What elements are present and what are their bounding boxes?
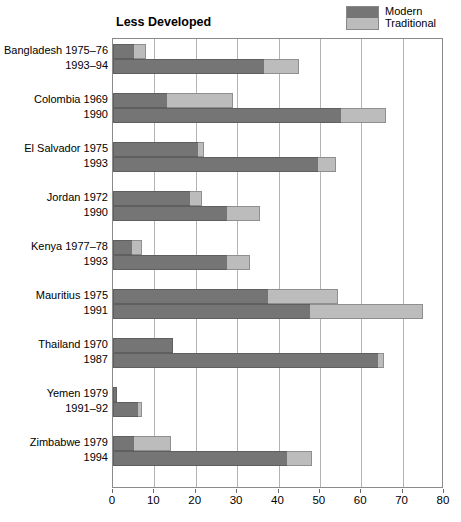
y-axis-label: 1993 (0, 156, 108, 171)
x-tick-label: 80 (437, 494, 450, 506)
bar-row (113, 240, 142, 255)
bar-row (113, 338, 173, 353)
bar-row (113, 157, 336, 172)
legend-swatch-traditional (347, 18, 378, 29)
bar-segment-traditional (268, 289, 338, 304)
bar-segment-traditional (264, 59, 299, 74)
bar-row (113, 44, 146, 59)
bar-segment-modern (113, 191, 190, 206)
y-axis-labels: Bangladesh 1975–761993–94Colombia 196919… (0, 38, 108, 488)
y-axis-label: Thailand 1970 (0, 337, 108, 352)
bar-row (113, 142, 204, 157)
bar-rows (113, 39, 442, 487)
bar-segment-modern (113, 436, 134, 451)
x-tick-label: 50 (312, 494, 325, 506)
y-axis-label: Zimbabwe 1979 (0, 435, 108, 450)
bar-segment-traditional (132, 240, 142, 255)
y-axis-label: 1991–92 (0, 401, 108, 416)
x-tick-label: 10 (147, 494, 160, 506)
legend-label-traditional: Traditional (385, 18, 436, 30)
x-tick-mark (319, 489, 320, 493)
bar-row (113, 206, 260, 221)
bar-segment-modern (113, 59, 264, 74)
bar-segment-traditional (138, 402, 142, 417)
y-axis-label: Colombia 1969 (0, 92, 108, 107)
bar-segment-traditional (310, 304, 424, 319)
bar-segment-traditional (167, 93, 233, 108)
bar-row (113, 402, 142, 417)
bar-segment-modern (113, 255, 227, 270)
bar-segment-traditional (227, 206, 260, 221)
bar-segment-modern (113, 387, 117, 402)
bar-segment-modern (113, 240, 132, 255)
y-axis-label: 1990 (0, 107, 108, 122)
plot-title: Less Developed (116, 15, 211, 29)
bar-segment-modern (113, 338, 173, 353)
x-tick-label: 20 (188, 494, 201, 506)
x-tick-mark (153, 489, 154, 493)
bar-segment-modern (113, 108, 341, 123)
x-tick-label: 0 (109, 494, 115, 506)
x-tick-mark (360, 489, 361, 493)
x-tick-mark (236, 489, 237, 493)
y-axis-label: Mauritius 1975 (0, 288, 108, 303)
y-axis-label: Jordan 1972 (0, 190, 108, 205)
y-axis-label: 1993–94 (0, 58, 108, 73)
bar-row (113, 191, 202, 206)
bar-row (113, 353, 384, 368)
x-tick-mark (195, 489, 196, 493)
x-tick-label: 70 (395, 494, 408, 506)
bar-row (113, 255, 250, 270)
bar-segment-modern (113, 93, 167, 108)
x-axis-ticks: 01020304050607080 (112, 489, 443, 509)
y-axis-label: 1987 (0, 352, 108, 367)
legend-swatch-modern (347, 7, 378, 18)
x-tick-mark (278, 489, 279, 493)
y-axis-label: 1993 (0, 254, 108, 269)
x-tick-label: 40 (271, 494, 284, 506)
legend-swatches (346, 6, 379, 30)
bar-segment-traditional (190, 191, 202, 206)
y-axis-label: 1990 (0, 205, 108, 220)
x-tick-label: 30 (230, 494, 243, 506)
x-tick-mark (112, 489, 113, 493)
bar-row (113, 387, 117, 402)
bar-segment-traditional (287, 451, 312, 466)
bar-row (113, 304, 423, 319)
plot-area (112, 38, 443, 488)
bar-segment-modern (113, 142, 198, 157)
bar-segment-modern (113, 289, 268, 304)
bar-segment-traditional (378, 353, 384, 368)
bar-segment-modern (113, 206, 227, 221)
bar-row (113, 451, 312, 466)
bar-row (113, 59, 299, 74)
legend-label-modern: Modern (385, 6, 436, 18)
bar-segment-modern (113, 402, 138, 417)
chart-root: Modern Traditional Less Developed Bangla… (0, 0, 461, 522)
y-axis-label: Bangladesh 1975–76 (0, 43, 108, 58)
bar-segment-modern (113, 451, 287, 466)
bar-segment-traditional (198, 142, 204, 157)
bar-segment-modern (113, 157, 318, 172)
bar-row (113, 108, 386, 123)
x-tick-mark (443, 489, 444, 493)
bar-row (113, 93, 233, 108)
bar-segment-modern (113, 353, 378, 368)
y-axis-label: El Salvador 1975 (0, 141, 108, 156)
bar-segment-traditional (134, 436, 171, 451)
bar-row (113, 289, 338, 304)
bar-segment-traditional (341, 108, 387, 123)
chart-legend: Modern Traditional (346, 6, 436, 30)
y-axis-label: Kenya 1977–78 (0, 239, 108, 254)
y-axis-label: Yemen 1979 (0, 386, 108, 401)
bar-segment-traditional (227, 255, 250, 270)
y-axis-label: 1991 (0, 303, 108, 318)
bar-segment-traditional (134, 44, 146, 59)
bar-segment-traditional (318, 157, 337, 172)
y-axis-label: 1994 (0, 450, 108, 465)
bar-row (113, 436, 171, 451)
bar-segment-modern (113, 304, 310, 319)
legend-labels: Modern Traditional (385, 6, 436, 29)
bar-segment-modern (113, 44, 134, 59)
x-tick-label: 60 (354, 494, 367, 506)
